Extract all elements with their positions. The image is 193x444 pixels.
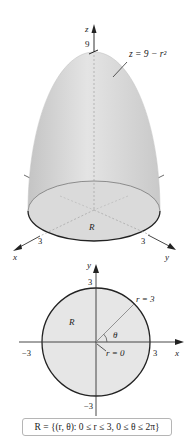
radius-label: r = 3: [136, 294, 155, 304]
y-axis-arrow-icon: [167, 243, 176, 250]
z-tick-label: 9: [85, 39, 90, 49]
polar-x-arrow-icon: [175, 339, 184, 345]
polar-y-axis-label: y: [86, 260, 91, 270]
polar-x-axis-label: x: [174, 348, 179, 358]
origin-label: r = 0: [106, 348, 125, 358]
caption-text: R = {(r, θ): 0 ≤ r ≤ 3, 0 ≤ θ ≤ 2π}: [34, 422, 159, 432]
polar-region-figure: y 3 −3 −3 3 x R r = 3 r = 0 θ: [19, 260, 184, 416]
y-tick-label: 3: [141, 236, 145, 246]
figure-canvas: z 9 z = 9 − r² R 3 3 x y y 3 −3 −3 3 x R…: [0, 0, 193, 444]
surface-equation: z = 9 − r²: [128, 49, 166, 59]
polar-y-arrow-icon: [93, 264, 99, 273]
theta-label: θ: [113, 330, 118, 340]
polar-region-label: R: [68, 317, 75, 327]
y-axis: [148, 235, 171, 247]
region-definition-caption: R = {(r, θ): 0 ≤ r ≤ 3, 0 ≤ θ ≤ 2π}: [22, 418, 172, 436]
region-label: R: [88, 222, 95, 232]
x-tick-left: −3: [22, 348, 31, 358]
z-axis-arrow-icon: [92, 24, 97, 33]
z-axis-label: z: [84, 24, 89, 34]
x-axis-label: x: [12, 252, 17, 262]
x-tick-label: 3: [38, 236, 42, 246]
y-tick-bottom: −3: [84, 401, 93, 411]
y-tick-top: 3: [88, 277, 92, 287]
x-tick-right: 3: [153, 348, 157, 358]
y-axis-label: y: [164, 252, 169, 262]
x-axis-arrow-icon: [13, 244, 22, 251]
paraboloid-figure: z 9 z = 9 − r² R 3 3 x y: [12, 24, 176, 262]
